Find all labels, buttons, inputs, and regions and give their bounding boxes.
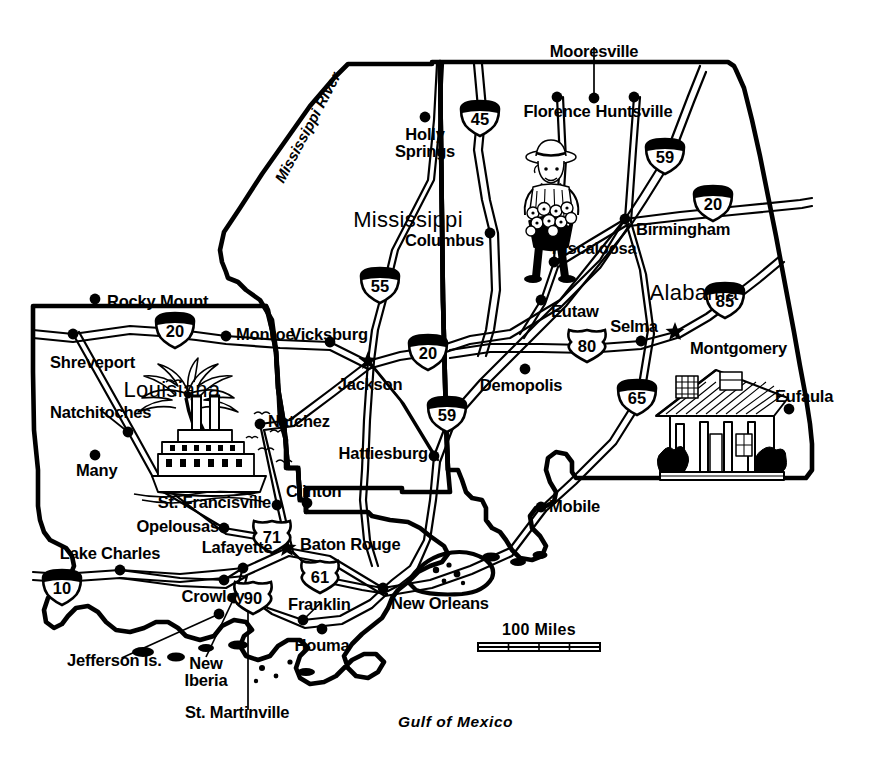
city-marker [317, 624, 328, 635]
interstate-shield-icon: 59 [428, 397, 466, 432]
city-label-natchez: Natchez [268, 413, 330, 430]
city-marker [255, 419, 266, 430]
city-label-birmingham: Birmingham [636, 221, 730, 238]
city-label-eufaula: Eufaula [775, 388, 833, 405]
city-dot-icon [420, 112, 431, 123]
city-label-huntsville: Huntsville [596, 103, 673, 120]
us-route-shield-icon: 80 [568, 330, 605, 362]
city-dot-icon [636, 336, 647, 347]
city-marker [221, 331, 232, 342]
state-label-louisiana: Louisiana [124, 379, 221, 402]
city-marker [219, 523, 230, 534]
city-dot-icon [549, 257, 560, 268]
city-dot-icon [221, 331, 232, 342]
city-marker [272, 500, 283, 511]
interstate-shield-icon: 45 [461, 101, 499, 136]
city-label-florence: Florence [523, 103, 590, 120]
city-label-monroe: Monroe [236, 326, 294, 343]
shield-number: 61 [311, 568, 329, 586]
interstate-shield-icon: 55 [361, 268, 399, 303]
shield-number: 80 [578, 337, 596, 355]
city-marker [620, 214, 631, 225]
state-label-mississippi: Mississippi [353, 209, 463, 232]
city-dot-icon [552, 92, 563, 103]
city-dot-icon [219, 575, 230, 586]
city-label-holly-springs: HollySprings [395, 126, 455, 159]
city-label-jefferson-is: Jefferson Is. [67, 652, 162, 669]
city-marker [636, 336, 647, 347]
city-label-houma: Houma [295, 637, 350, 654]
shield-number: 10 [53, 579, 71, 597]
city-marker [549, 257, 560, 268]
city-dot-icon [238, 563, 249, 574]
city-label-mobile: Mobile [549, 498, 600, 515]
city-marker [420, 112, 431, 123]
shield-number: 20 [166, 322, 184, 340]
city-label-hattiesburg: Hattiesburg [339, 445, 428, 462]
city-label-tuscaloosa: Tuscaloosa [549, 240, 637, 257]
label-leader-line [206, 598, 234, 657]
city-marker [429, 451, 440, 462]
city-dot-icon [115, 565, 126, 576]
city-label-mooresville: Mooresville [550, 43, 639, 60]
city-marker [784, 404, 795, 415]
shield-number: 55 [371, 277, 389, 295]
shield-number: 59 [656, 148, 674, 166]
city-label-baton-rouge: Baton Rouge [300, 536, 400, 553]
city-dot-icon [784, 404, 795, 415]
city-dot-icon [90, 450, 101, 461]
scale-bar [478, 643, 600, 651]
city-marker [115, 565, 126, 576]
city-label-clinton: Clinton [286, 483, 341, 500]
city-label-columbus: Columbus [405, 232, 484, 249]
city-label-st-martinville: St. Martinville [185, 704, 289, 721]
city-dot-icon [90, 294, 101, 305]
shield-number: 20 [419, 344, 437, 362]
scale-bar-label: 100 Miles [502, 622, 576, 639]
water-label-gulf-of-mexico: Gulf of Mexico [398, 714, 513, 730]
city-label-lafayette: Lafayette [202, 539, 273, 556]
city-marker [536, 295, 547, 306]
interstate-shield-icon: 59 [646, 139, 684, 174]
shield-number: 65 [628, 389, 646, 407]
city-label-many: Many [76, 462, 117, 479]
city-label-franklin: Franklin [288, 596, 351, 613]
city-marker [238, 563, 249, 574]
city-marker [485, 228, 496, 239]
city-marker [68, 329, 79, 340]
city-dot-icon [620, 214, 631, 225]
city-label-jackson: Jackson [338, 376, 403, 393]
city-dot-icon [520, 364, 531, 375]
city-dot-icon [255, 419, 266, 430]
city-label-vicksburg: Vicksburg [290, 326, 368, 343]
city-dot-icon [429, 451, 440, 462]
city-marker [552, 92, 563, 103]
city-label-new-orleans: New Orleans [391, 595, 489, 612]
city-label-eutaw: Eutaw [551, 303, 599, 320]
state-label-alabama: Alabama [650, 282, 739, 305]
city-label-natchitoches: Natchitoches [50, 404, 151, 421]
city-label-new-iberia: NewIberia [185, 655, 228, 688]
shield-number: 90 [244, 589, 262, 607]
us-route-shield-icon: 61 [301, 561, 338, 593]
city-dot-icon [68, 329, 79, 340]
city-marker [629, 92, 640, 103]
shield-number: 59 [438, 406, 456, 424]
interstate-shield-icon: 65 [618, 380, 656, 415]
city-marker [520, 364, 531, 375]
shield-number: 20 [704, 195, 722, 213]
shield-number: 45 [471, 110, 489, 128]
city-marker [219, 575, 230, 586]
city-dot-icon [485, 228, 496, 239]
city-dot-icon [536, 502, 547, 513]
city-label-demopolis: Demopolis [480, 377, 563, 394]
city-label-rocky-mount: Rocky Mount [107, 293, 208, 310]
city-marker [90, 294, 101, 305]
city-label-selma: Selma [610, 318, 658, 335]
interstate-shield-icon: 20 [156, 313, 194, 348]
city-marker [378, 583, 389, 594]
city-marker [536, 502, 547, 513]
city-dot-icon [219, 523, 230, 534]
city-label-montgomery: Montgomery [690, 340, 787, 357]
city-dot-icon [629, 92, 640, 103]
